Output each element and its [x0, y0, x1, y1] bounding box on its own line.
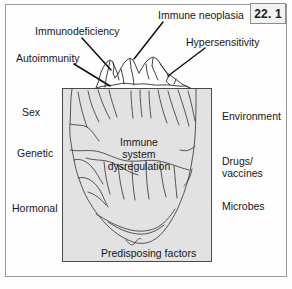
label-drugs-vaccines: Drugs/ vaccines	[222, 155, 263, 179]
leader-line-hypersensitivity	[168, 48, 205, 76]
label-immune-neoplasia: Immune neoplasia	[158, 9, 244, 21]
label-immunodeficiency: Immunodeficiency	[35, 25, 120, 37]
label-hormonal: Hormonal	[12, 202, 58, 214]
leader-line-immunodeficiency	[82, 38, 111, 70]
label-microbes: Microbes	[222, 200, 265, 212]
label-hypersensitivity: Hypersensitivity	[186, 36, 260, 48]
figure-container: 22. 1	[0, 0, 292, 289]
label-drugs-line2: vaccines	[222, 167, 263, 179]
leader-line-autoimmunity	[74, 64, 110, 86]
label-sex: Sex	[22, 106, 40, 118]
label-core-line2: dysregulation	[108, 160, 170, 172]
label-immune-system-dysregulation: Immune system dysregulation	[103, 136, 175, 172]
leader-line-immune-neoplasia	[134, 22, 163, 59]
label-predisposing-factors: Predisposing factors	[101, 247, 196, 259]
label-autoimmunity: Autoimmunity	[16, 52, 80, 64]
iceberg-peak	[96, 57, 190, 88]
label-drugs-line1: Drugs/	[222, 155, 253, 167]
figure-number-badge: 22. 1	[250, 3, 286, 24]
label-genetic: Genetic	[17, 147, 53, 159]
label-environment: Environment	[222, 110, 281, 122]
figure-number-text: 22. 1	[254, 7, 282, 21]
label-core-line1: Immune system	[120, 136, 158, 160]
